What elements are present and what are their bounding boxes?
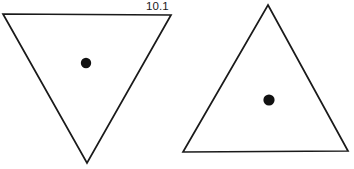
figure-panel-10-1: 10.1 — [0, 0, 177, 169]
figure-canvas: 10.1 10.2 — [0, 0, 354, 169]
figure-panel-10-2: 10.2 — [177, 0, 354, 169]
figure-label-10-1: 10.1 — [146, 0, 169, 12]
